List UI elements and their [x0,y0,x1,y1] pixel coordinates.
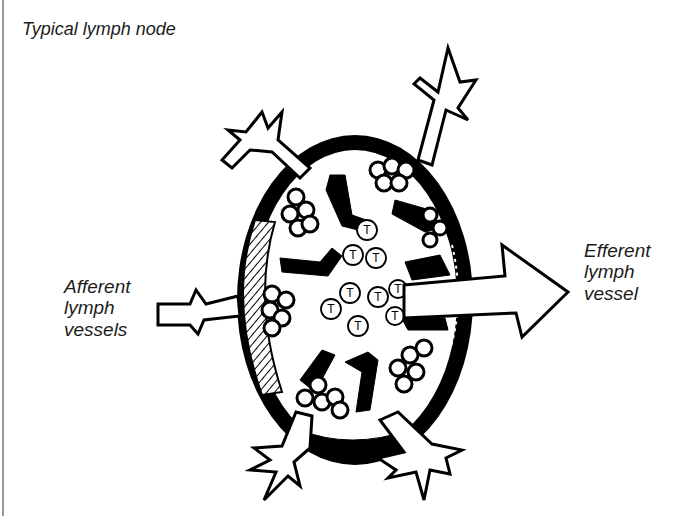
afferent-vessel-top [414,48,476,165]
afferent-vessel-upper-left [222,112,310,178]
t-marker: T [346,286,354,300]
t-marker: T [354,319,362,333]
t-marker: T [327,302,335,316]
afferent-vessel-left [158,290,240,334]
lymph-node-figure: Typical lymph node Afferent lymph vessel… [0,0,689,526]
follicle-top [370,158,414,191]
t-marker: T [374,290,382,304]
t-marker: T [349,248,357,262]
lymph-node-illustration: T T T T T T T T T [0,0,689,526]
t-marker: T [363,223,371,237]
t-marker: T [394,282,402,296]
t-marker: T [391,309,399,323]
t-marker: T [372,251,380,265]
